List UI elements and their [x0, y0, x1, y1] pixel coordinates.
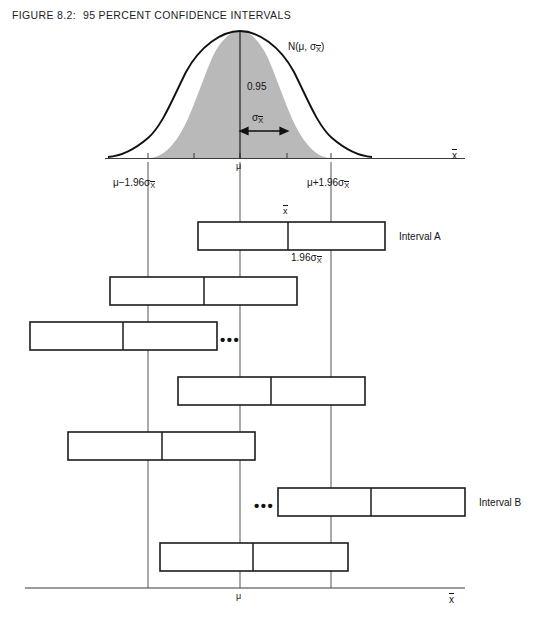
sigma-subscript-xbar: X — [316, 45, 321, 54]
distribution-label: N(μ, σX) — [288, 41, 324, 54]
curve-axis-label: x — [452, 150, 457, 161]
half-width-subscript: X — [317, 256, 322, 265]
interval-bar — [160, 543, 348, 571]
ellipsis-marker: ••• — [254, 498, 274, 513]
interval-bar — [198, 222, 385, 250]
upper-bound-subscript: X — [344, 181, 349, 190]
area-probability-label: 0.95 — [247, 81, 266, 92]
half-width-label: 1.96σX — [291, 252, 322, 265]
interval-bars — [30, 222, 465, 571]
sigma-arrow-label: σX — [252, 112, 263, 125]
bottom-axis-label: x — [449, 594, 454, 605]
sigma-arrow-subscript: X — [258, 116, 263, 125]
lower-bound-label: μ−1.96σX — [113, 177, 155, 190]
figure-graphics — [0, 0, 534, 626]
xbar-above-interval-a: x — [283, 206, 288, 216]
ellipsis-marker: ••• — [220, 332, 240, 347]
curve-mean-label: μ — [236, 161, 241, 171]
lower-bound-subscript: X — [150, 181, 155, 190]
figure-container: FIGURE 8.2:95 PERCENT CONFIDENCE INTERVA… — [0, 0, 534, 626]
interval-label: Interval A — [399, 231, 441, 242]
upper-bound-label: μ+1.96σX — [307, 177, 349, 190]
interval-label: Interval B — [479, 497, 521, 508]
bottom-axis-mean-label: μ — [236, 591, 241, 601]
